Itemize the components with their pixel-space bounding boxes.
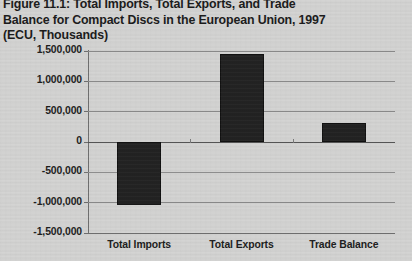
x-tick (293, 139, 294, 143)
gridline-neg1500000 (88, 233, 395, 234)
y-tick (84, 142, 88, 143)
chart-plot-area (88, 51, 395, 233)
y-axis-labels: 1,500,0001,000,000500,0000-500,000-1,000… (0, 51, 82, 233)
x-tick (190, 139, 191, 143)
bar-total-imports (117, 142, 161, 205)
y-tick (84, 202, 88, 203)
y-tick (84, 172, 88, 173)
x-axis-category-label: Total Imports (88, 239, 190, 250)
y-axis-tick-label: 1,500,000 (0, 44, 82, 55)
y-tick (84, 81, 88, 82)
y-axis-tick-label: 0 (0, 135, 82, 146)
y-tick (84, 111, 88, 112)
x-axis-category-label: Trade Balance (293, 239, 395, 250)
bar-total-exports (220, 54, 264, 142)
x-axis-labels: Total ImportsTotal ExportsTrade Balance (88, 239, 395, 257)
gridline-1500000 (88, 51, 395, 52)
figure-title: Figure 11.1: Total Imports, Total Export… (3, 0, 407, 44)
y-tick (84, 233, 88, 234)
bar-trade-balance (322, 123, 366, 142)
x-axis-category-label: Total Exports (190, 239, 292, 250)
y-axis-tick-label: 500,000 (0, 105, 82, 116)
y-axis-tick-label: -500,000 (0, 165, 82, 176)
y-axis-tick-label: -1,000,000 (0, 196, 82, 207)
y-axis-tick-label: 1,000,000 (0, 74, 82, 85)
y-tick (84, 51, 88, 52)
y-axis-tick-label: -1,500,000 (0, 226, 82, 237)
